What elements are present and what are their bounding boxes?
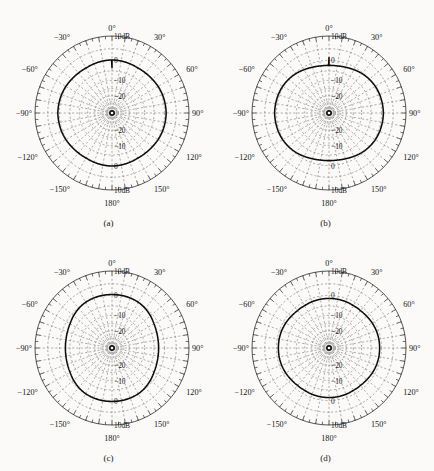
radial-tick-label-upper: 0 [331,56,335,65]
axis-tick [296,278,297,281]
axis-tick [79,415,80,418]
angle-tick-label: 60° [186,300,197,309]
axis-tick [173,155,175,157]
axis-tick [74,46,76,50]
axis-tick [58,165,60,167]
axis-tick [309,184,310,187]
radial-tick-label-lower: 0 [331,397,335,406]
polar-plot-a: 0°30°60°90°120°150°180°−150°−120°−90°−60… [0,0,217,235]
axis-tick [259,144,262,145]
panel-caption-a: (a) [0,218,217,228]
axis-tick [257,87,261,89]
axis-tick [63,169,66,172]
axis-tick [173,390,175,392]
axis-tick [148,411,150,415]
axis-tick [309,274,310,277]
axis-tick [397,322,401,324]
axis-tick [38,93,41,94]
axis-tick [360,180,361,183]
axis-tick [45,310,49,312]
axis-tick [183,126,187,127]
axis-tick [173,69,175,71]
axis-tick [385,160,388,163]
polar-chart-panel-a: 0°30°60°90°120°150°180°−150°−120°−90°−60… [0,0,217,235]
angle-tick-label: −90° [16,109,32,118]
angle-tick-label: 90° [192,344,203,353]
angle-tick-label: 60° [403,65,414,74]
panel-caption-b: (b) [217,218,434,228]
polar-plot-b: 0°30°60°90°120°150°180°−150°−120°−90°−60… [217,0,434,235]
angle-tick-label: −120° [235,388,255,397]
axis-tick [392,310,396,312]
axis-tick [63,404,66,407]
angle-tick-label: 180° [321,199,337,208]
axis-tick [259,315,262,316]
axis-tick [164,400,166,402]
axis-tick [159,54,162,57]
axis-tick [303,276,305,280]
axis-tick [159,169,162,172]
axis-tick [137,416,139,420]
axis-tick [36,126,40,127]
axis-tick [131,274,132,277]
axis-tick [180,87,184,89]
axis-tick [266,69,268,71]
axis-tick [253,100,257,101]
axis-tick [148,46,150,50]
axis-tick [400,126,404,127]
radial-tick-label-upper: 10dB [331,267,347,276]
radial-tick-label-lower: 0 [331,162,335,171]
axis-tick [390,69,392,71]
angle-tick-label: 120° [403,153,419,162]
axis-tick [400,335,404,336]
axis-tick [137,276,139,280]
angle-tick-label: −30° [54,33,70,42]
axis-tick [175,149,179,151]
axis-tick [257,373,261,375]
axis-tick [168,160,171,163]
axis-tick [316,37,317,41]
axis-tick [45,75,49,77]
axis-tick [99,37,100,41]
angle-tick-label: −150° [50,185,70,194]
axis-tick [164,59,166,61]
axis-tick [392,75,396,77]
axis-tick [390,155,392,157]
axis-tick [179,144,182,145]
angle-tick-label: −60° [239,65,255,74]
center-hub-core [328,112,331,115]
axis-tick [275,59,277,61]
angle-tick-label: −90° [233,344,249,353]
axis-tick [159,289,162,292]
axis-tick [180,322,184,324]
angle-tick-label: −120° [235,153,255,162]
radial-tick-label-upper: −20 [331,92,343,101]
angle-tick-label: 30° [371,268,382,277]
radial-tick-label-upper: 10dB [331,32,347,41]
axis-tick [365,281,367,285]
axis-tick [253,361,257,362]
axis-tick [180,373,184,375]
axis-tick [183,328,186,329]
axis-tick [291,411,293,415]
axis-tick [49,155,51,157]
axis-tick [183,132,186,133]
polar-plot-d: 0°30°60°90°120°150°180°−150°−120°−90°−60… [217,235,434,470]
angle-tick-label: 150° [371,185,387,194]
axis-tick [175,384,179,386]
axis-tick [354,41,356,45]
radial-tick-label-upper: 0 [331,291,335,300]
angle-tick-label: −120° [18,388,38,397]
axis-tick [92,39,93,42]
axis-tick [79,43,80,46]
polar-chart-panel-d: 0°30°60°90°120°150°180°−150°−120°−90°−60… [217,235,434,470]
angle-tick-label: 90° [409,344,420,353]
axis-tick [360,415,361,418]
axis-tick [137,41,139,45]
axis-tick [143,43,144,46]
axis-tick [154,174,156,176]
axis-tick [371,174,373,176]
angle-tick-label: 150° [154,420,170,429]
radial-tick-label-upper: −10 [114,76,126,85]
axis-tick [183,361,187,362]
